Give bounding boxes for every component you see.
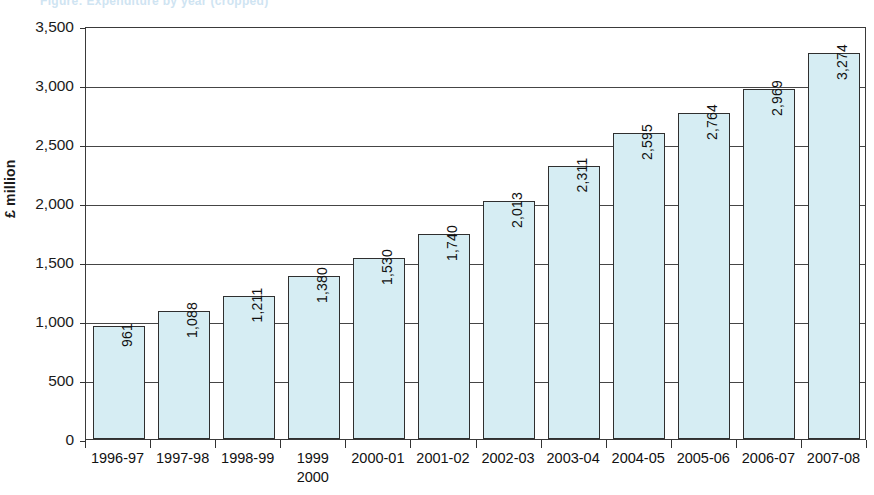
bar-value-label: 2,311 [574,158,590,193]
x-axis-tick-label: 2000-01 [345,449,410,468]
x-axis-tick-mark [410,440,411,448]
x-axis: 1996-971997-981998-991999 20002000-01200… [85,440,866,495]
bar-value-label: 2,595 [639,124,655,160]
x-axis-tick-label: 1998-99 [215,449,280,468]
bar[interactable]: 1,211 [223,296,275,439]
y-axis-tick-label: 1,000 [35,313,74,331]
x-axis-tick-mark [541,440,542,448]
x-axis-tick-label: 1997-98 [150,449,215,468]
bar-value-label: 3,274 [834,44,850,80]
x-axis-tick-mark [345,440,346,448]
bar[interactable]: 1,088 [158,311,210,439]
x-axis-tick-mark [280,440,281,448]
bar-value-label: 1,088 [184,302,200,338]
x-axis-tick-mark [606,440,607,448]
x-axis-tick-label: 2002-03 [476,449,541,468]
y-axis-tick-label: 3,500 [35,18,74,36]
x-axis-tick-mark [476,440,477,448]
y-axis-tick-label: 500 [48,372,74,390]
y-axis-labels: 05001,0001,5002,0002,5003,0003,500 [0,0,82,495]
x-axis-tick-label: 2006-07 [736,449,801,468]
bar[interactable]: 2,969 [743,89,795,439]
y-axis-tick-label: 1,500 [35,254,74,272]
y-axis-tick-label: 2,500 [35,136,74,154]
bar-value-label: 1,740 [444,225,460,261]
x-axis-tick-label: 2007-08 [801,449,866,468]
y-axis-tick-label: 3,000 [35,77,74,95]
x-axis-tick-mark [736,440,737,448]
x-axis-tick-label: 1996-97 [85,449,150,468]
x-axis-tick-label: 2003-04 [541,449,606,468]
bar[interactable]: 2,764 [678,113,730,439]
cropped-title-strip: Figure: Expenditure by year (cropped) [0,0,874,12]
bar-chart: Figure: Expenditure by year (cropped) £ … [0,0,874,495]
x-axis-tick-mark [150,440,151,448]
y-axis-tick-mark [80,382,86,383]
bar[interactable]: 2,013 [483,201,535,439]
x-axis-tick-label: 2001-02 [410,449,475,468]
x-axis-tick-label: 2005-06 [671,449,736,468]
y-axis-tick-mark [80,323,86,324]
bar-value-label: 961 [119,323,135,347]
x-axis-tick-label: 1999 2000 [280,449,345,487]
bar-value-label: 1,530 [379,249,395,285]
y-axis-tick-mark [80,28,86,29]
y-axis-tick-label: 2,000 [35,195,74,213]
bar[interactable]: 1,380 [288,276,340,439]
y-axis-tick-mark [80,264,86,265]
bar[interactable]: 1,530 [353,258,405,439]
x-axis-tick-mark [85,440,86,448]
x-axis-tick-mark [866,440,867,448]
plot-area: 9611,0881,2111,3801,5301,7402,0132,3112,… [85,27,866,440]
bar-value-label: 1,211 [249,288,265,323]
y-axis-tick-mark [80,146,86,147]
bar-value-label: 2,013 [509,192,525,228]
y-axis-tick-mark [80,87,86,88]
x-axis-tick-mark [215,440,216,448]
bar[interactable]: 2,311 [548,166,600,439]
x-axis-tick-label: 2004-05 [606,449,671,468]
bar[interactable]: 3,274 [808,53,860,439]
bar[interactable]: 1,740 [418,234,470,439]
y-axis-tick-label: 0 [65,431,74,449]
bar[interactable]: 2,595 [613,133,665,439]
y-axis-tick-mark [80,205,86,206]
x-axis-tick-mark [801,440,802,448]
bar-value-label: 1,380 [314,267,330,303]
bar-value-label: 2,969 [769,80,785,116]
x-axis-tick-mark [671,440,672,448]
bar-value-label: 2,764 [704,104,720,140]
bar[interactable]: 961 [93,326,145,439]
